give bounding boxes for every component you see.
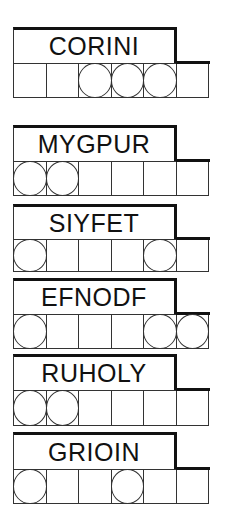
- scrambled-word-block: RUHOLY: [13, 354, 209, 426]
- circled-letter-box[interactable]: [144, 315, 177, 348]
- circled-letter-box[interactable]: [14, 315, 47, 348]
- circle-icon: [13, 314, 47, 349]
- letter-box[interactable]: [79, 315, 112, 348]
- answer-letter-row: [13, 239, 209, 272]
- circle-icon: [111, 469, 145, 504]
- letter-box[interactable]: [79, 470, 112, 503]
- letter-box[interactable]: [144, 162, 177, 195]
- circled-letter-box[interactable]: [47, 391, 80, 425]
- letter-box[interactable]: [177, 162, 209, 195]
- answer-letter-row: [13, 161, 209, 196]
- answer-letter-row: [13, 314, 209, 349]
- letter-box[interactable]: [79, 240, 112, 271]
- circle-icon: [176, 314, 210, 349]
- letter-box[interactable]: [14, 64, 47, 97]
- circled-letter-box[interactable]: [177, 315, 209, 348]
- answer-letter-row: [13, 469, 209, 504]
- circle-icon: [143, 239, 177, 272]
- circle-icon: [78, 63, 112, 98]
- answer-letter-row: [13, 390, 209, 426]
- letter-box[interactable]: [144, 391, 177, 425]
- circled-letter-box[interactable]: [14, 240, 47, 271]
- scrambled-word-block: GRIOIN: [13, 432, 209, 504]
- letter-box[interactable]: [177, 470, 209, 503]
- circle-icon: [13, 469, 47, 504]
- answer-letter-row: [13, 63, 209, 98]
- circled-letter-box[interactable]: [112, 64, 145, 97]
- letter-box[interactable]: [112, 391, 145, 425]
- letter-box[interactable]: [177, 240, 209, 271]
- letter-box[interactable]: [47, 64, 80, 97]
- scrambled-word-label: RUHOLY: [13, 354, 177, 390]
- circle-icon: [13, 239, 47, 272]
- scrambled-word-block: MYGPUR: [13, 125, 209, 196]
- circled-letter-box[interactable]: [144, 64, 177, 97]
- circled-letter-box[interactable]: [14, 391, 47, 425]
- circled-letter-box[interactable]: [112, 470, 145, 503]
- answer-word-block: CORINI: [13, 27, 209, 98]
- scrambled-word-block: EFNODF: [13, 278, 209, 349]
- scrambled-word-label: GRIOIN: [13, 432, 177, 469]
- letter-box[interactable]: [177, 391, 209, 425]
- letter-box[interactable]: [112, 240, 145, 271]
- scrambled-word-label: EFNODF: [13, 278, 177, 314]
- letter-box[interactable]: [79, 162, 112, 195]
- circle-icon: [143, 63, 177, 98]
- letter-box[interactable]: [177, 64, 209, 97]
- letter-box[interactable]: [47, 315, 80, 348]
- scrambled-word-label: SIYFET: [13, 204, 177, 239]
- letter-box[interactable]: [112, 315, 145, 348]
- circle-icon: [111, 63, 145, 98]
- scrambled-word-block: SIYFET: [13, 204, 209, 272]
- scrambled-word-label: CORINI: [13, 27, 177, 63]
- circle-icon: [143, 314, 177, 349]
- circled-letter-box[interactable]: [14, 470, 47, 503]
- circled-letter-box[interactable]: [144, 240, 177, 271]
- circled-letter-box[interactable]: [47, 162, 80, 195]
- letter-box[interactable]: [47, 470, 80, 503]
- letter-box[interactable]: [144, 470, 177, 503]
- letter-box[interactable]: [79, 391, 112, 425]
- circled-letter-box[interactable]: [14, 162, 47, 195]
- circle-icon: [46, 161, 80, 196]
- circle-icon: [13, 390, 47, 426]
- circle-icon: [46, 390, 80, 426]
- letter-box[interactable]: [112, 162, 145, 195]
- scrambled-word-label: MYGPUR: [13, 125, 177, 161]
- letter-box[interactable]: [47, 240, 80, 271]
- circled-letter-box[interactable]: [79, 64, 112, 97]
- circle-icon: [13, 161, 47, 196]
